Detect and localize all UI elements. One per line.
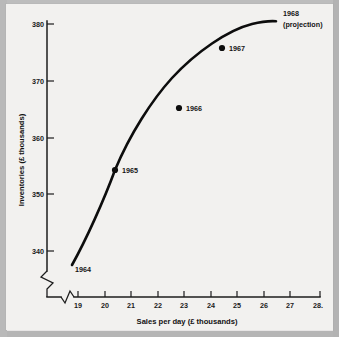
line-chart: 380 370 360 350 340 Inventories (£ thous… <box>0 0 339 337</box>
x-tick-label-25: 25 <box>233 301 241 310</box>
y-tick-labels: 380 370 360 350 340 <box>32 20 44 256</box>
y-tick-label-350: 350 <box>32 190 44 199</box>
scanned-chart-page: 380 370 360 350 340 Inventories (£ thous… <box>0 0 339 337</box>
x-tick-label-19: 19 <box>74 301 82 310</box>
data-label-1966: 1966 <box>186 104 202 113</box>
x-axis-title: Sales per day (£ thousands) <box>137 317 238 326</box>
data-label-1968: 1968 <box>283 9 299 18</box>
x-tick-label-20: 20 <box>101 301 109 310</box>
data-point-1967 <box>219 45 225 51</box>
x-tick-label-28: 28. <box>313 301 323 310</box>
x-tick-label-26: 26 <box>260 301 268 310</box>
x-tick-label-21: 21 <box>127 301 135 310</box>
data-label-1964: 1964 <box>75 265 91 274</box>
x-tick-label-22: 22 <box>154 301 162 310</box>
y-tick-label-360: 360 <box>32 134 44 143</box>
data-point-markers <box>112 45 225 173</box>
data-point-1965 <box>112 167 118 173</box>
data-label-1967: 1967 <box>229 44 245 53</box>
y-axis-title: Inventories (£ thousands) <box>17 113 26 206</box>
data-curve <box>72 21 276 265</box>
y-tick-label-370: 370 <box>32 77 44 86</box>
x-axis-break-icon <box>61 291 74 303</box>
y-tick-label-340: 340 <box>32 247 44 256</box>
data-point-1966 <box>176 105 182 111</box>
data-label-1965: 1965 <box>122 166 138 175</box>
data-point-labels: 1964 1965 1966 1967 1968 (projection) <box>75 9 323 274</box>
x-tick-label-27: 27 <box>286 301 294 310</box>
x-tick-marks <box>78 291 290 297</box>
y-tick-label-380: 380 <box>32 20 44 29</box>
x-tick-label-24: 24 <box>207 301 215 310</box>
y-axis-break-icon <box>41 271 53 297</box>
x-tick-label-23: 23 <box>180 301 188 310</box>
x-tick-labels: 19 20 21 22 23 24 25 26 27 28. <box>74 301 323 310</box>
y-tick-marks <box>47 24 54 251</box>
data-label-1968-projection: (projection) <box>283 20 323 29</box>
